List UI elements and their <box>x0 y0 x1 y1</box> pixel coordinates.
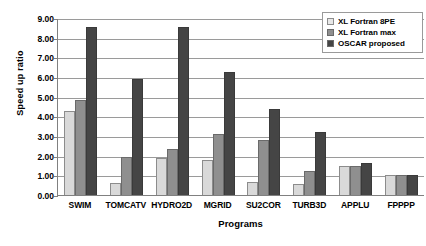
x-tick-label: MGRID <box>195 200 241 210</box>
y-tickmark <box>54 196 58 197</box>
x-tick-label: SWIM <box>57 200 103 210</box>
legend-swatch-icon <box>327 29 334 36</box>
bar <box>396 175 407 195</box>
bar <box>156 158 167 195</box>
bar <box>350 166 361 196</box>
bar-group <box>241 19 287 195</box>
bar <box>213 134 224 195</box>
legend-label: XL Fortran 8PE <box>338 17 395 26</box>
legend-item: OSCAR proposed <box>327 38 418 49</box>
x-tick-label: TURB3D <box>286 200 332 210</box>
x-axis-tick-labels: SWIMTOMCATVHYDRO2DMGRIDSU2CORTURB3DAPPLU… <box>57 200 424 210</box>
bar-group <box>58 19 104 195</box>
y-tick-label: 3.00 <box>14 133 54 142</box>
x-tick-label: APPLU <box>332 200 378 210</box>
bar-group <box>104 19 150 195</box>
legend-item: XL Fortran max <box>327 27 418 38</box>
bar <box>361 163 372 195</box>
bar <box>167 149 178 195</box>
y-tick-label: 6.00 <box>14 74 54 83</box>
y-tick-label: 9.00 <box>14 15 54 24</box>
bar <box>269 109 280 195</box>
bar-group <box>195 19 241 195</box>
bar <box>75 100 86 195</box>
bar <box>86 27 97 195</box>
legend-item: XL Fortran 8PE <box>327 16 418 27</box>
y-tick-label: 5.00 <box>14 93 54 102</box>
bar <box>304 171 315 195</box>
y-tick-label: 2.00 <box>14 152 54 161</box>
bar <box>178 27 189 195</box>
y-tick-label: 8.00 <box>14 34 54 43</box>
y-axis-tick-labels: 9.008.007.006.005.004.003.002.001.000.00 <box>14 0 54 246</box>
bar <box>258 140 269 195</box>
x-tick-label: HYDRO2D <box>149 200 195 210</box>
bar <box>110 183 121 195</box>
speedup-bar-chart: Speed up ratio 9.008.007.006.005.004.003… <box>0 0 426 246</box>
x-axis-title: Programs <box>57 218 424 229</box>
y-tick-label: 1.00 <box>14 172 54 181</box>
legend-swatch-icon <box>327 18 334 25</box>
bar <box>202 160 213 195</box>
legend-label: XL Fortran max <box>338 28 396 37</box>
bar <box>64 111 75 195</box>
bar <box>121 157 132 195</box>
y-tick-label: 7.00 <box>14 54 54 63</box>
y-tick-label: 4.00 <box>14 113 54 122</box>
x-tick-label: TOMCATV <box>103 200 149 210</box>
x-tick-label: FPPPP <box>378 200 424 210</box>
x-tick-label: SU2COR <box>241 200 287 210</box>
bar <box>132 79 143 195</box>
legend-swatch-icon <box>327 40 334 47</box>
bar <box>407 175 418 195</box>
y-tick-label: 0.00 <box>14 192 54 201</box>
bar <box>224 72 235 195</box>
bar <box>315 132 326 195</box>
chart-legend: XL Fortran 8PEXL Fortran maxOSCAR propos… <box>322 12 423 53</box>
bar <box>339 166 350 196</box>
legend-label: OSCAR proposed <box>338 39 405 48</box>
bar-group <box>150 19 196 195</box>
bar <box>293 184 304 195</box>
bar <box>385 175 396 195</box>
bar <box>247 182 258 195</box>
